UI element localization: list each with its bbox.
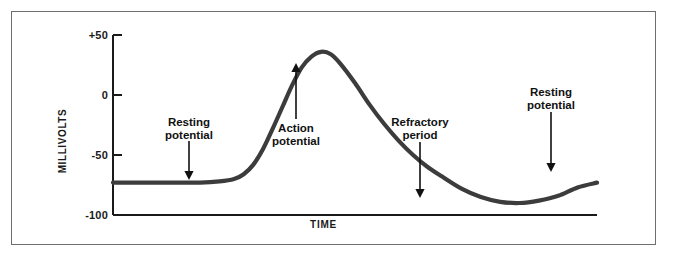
axes-group: [113, 35, 597, 215]
annotation-arrow-head: [184, 171, 193, 180]
annotation-arrow-head: [415, 189, 424, 198]
membrane-potential-curve: [113, 52, 597, 203]
figure-container: +50 0 -50 -100 MILLIVOLTS TIME Resting p…: [0, 0, 674, 261]
plot-area: [0, 0, 674, 261]
y-axis-ticks: [113, 35, 122, 215]
annotation-arrow-head: [546, 163, 555, 172]
